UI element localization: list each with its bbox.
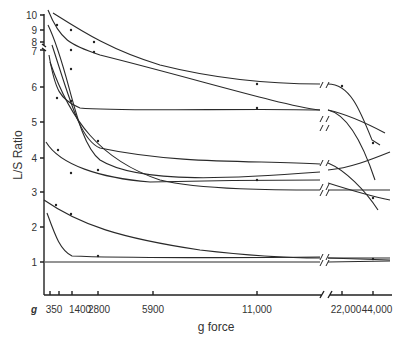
curve-1 <box>53 13 380 145</box>
curve-4 <box>52 45 378 210</box>
curve-6 <box>50 62 390 190</box>
y-tick-3: 3 <box>31 187 37 198</box>
x-tick-44000: 44,000 <box>362 304 393 315</box>
y-tick-1: 1 <box>31 257 37 268</box>
x-tick-350: 350 <box>46 304 63 315</box>
curve-3 <box>48 25 390 178</box>
curve-9 <box>47 213 390 258</box>
x-tick-11000: 11,000 <box>242 304 272 315</box>
curves <box>44 10 390 262</box>
y-ticks: 10 9 8 7 6 5 4 3 2 1 <box>26 10 44 268</box>
x-tick-22000: 22,000 <box>331 304 362 315</box>
data-points <box>55 24 374 260</box>
curve-10 <box>45 261 390 262</box>
x-axis <box>44 291 392 298</box>
curve-8 <box>44 200 390 260</box>
y-tick-10: 10 <box>26 10 38 21</box>
y-tick-2: 2 <box>31 222 37 233</box>
y-tick-9: 9 <box>31 25 37 36</box>
y-tick-4: 4 <box>31 153 37 164</box>
y-tick-6: 6 <box>31 82 37 93</box>
x-axis-title: g force <box>198 320 235 334</box>
x-tick-prefix: g <box>30 304 37 315</box>
x-tick-5900: 5900 <box>142 304 165 315</box>
curve-break-marks <box>320 82 329 266</box>
curve-5 <box>49 55 375 180</box>
y-tick-5: 5 <box>31 117 37 128</box>
y-axis <box>42 14 46 295</box>
line-chart: 10 9 8 7 6 5 4 3 2 1 g 350 1400 2800 590… <box>0 0 413 348</box>
curve-2 <box>48 10 385 133</box>
y-tick-7: 7 <box>31 46 37 57</box>
y-axis-title: L/S Ratio <box>11 130 25 180</box>
x-tick-2800: 2800 <box>88 304 111 315</box>
